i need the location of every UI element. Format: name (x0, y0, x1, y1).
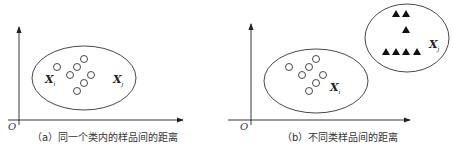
cluster-boundary-i (264, 49, 368, 113)
origin-label-b: O (240, 121, 248, 132)
label-xj-b: Xj (429, 38, 439, 52)
panel-b (228, 4, 449, 125)
caption-b: （b）不同类样品间的距离 (282, 129, 398, 144)
caption-a: （a）同一个类内的样品间的距离 (32, 129, 178, 144)
panel-a (8, 27, 183, 125)
triangle-samples (382, 10, 421, 55)
label-xi-a: Xi (45, 73, 55, 87)
label-xi-b: Xi (330, 81, 340, 95)
circle-samples-b (286, 56, 327, 95)
label-xj-a: Xj (113, 73, 123, 87)
circle-samples-a (54, 56, 95, 95)
origin-label-a: O (8, 121, 16, 132)
